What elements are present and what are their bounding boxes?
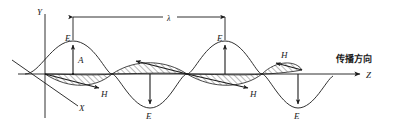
h-lobe-1 <box>45 74 112 85</box>
e-label-2: E <box>145 111 152 121</box>
h-label-2: H <box>249 89 257 99</box>
amplitude-label: A <box>77 55 84 65</box>
e-label-3: E <box>216 33 223 43</box>
amplitude-origin-dot <box>72 73 74 75</box>
propagation-direction-label: 传播方向 <box>335 53 372 64</box>
h-label-1: H <box>100 89 108 99</box>
wavelength-label: λ <box>166 14 171 23</box>
y-axis-label: Y <box>37 7 43 17</box>
em-wave-canvas: Y X Z 传播方向 λ E A H E E H H E <box>0 0 395 130</box>
em-wave-figure: Y X Z 传播方向 λ E A H E E H H E <box>0 0 395 130</box>
label-group: Y X Z 传播方向 λ E A H E E H H E <box>37 7 372 121</box>
h-lobe-3 <box>187 74 262 85</box>
z-axis-label: Z <box>366 70 372 80</box>
e-label-1: E <box>64 33 71 43</box>
h-label-3: H <box>280 50 288 60</box>
wavelength-dimension <box>73 17 225 40</box>
e-label-4: E <box>293 111 300 121</box>
x-axis-label: X <box>78 103 85 113</box>
axis-group <box>12 14 360 118</box>
